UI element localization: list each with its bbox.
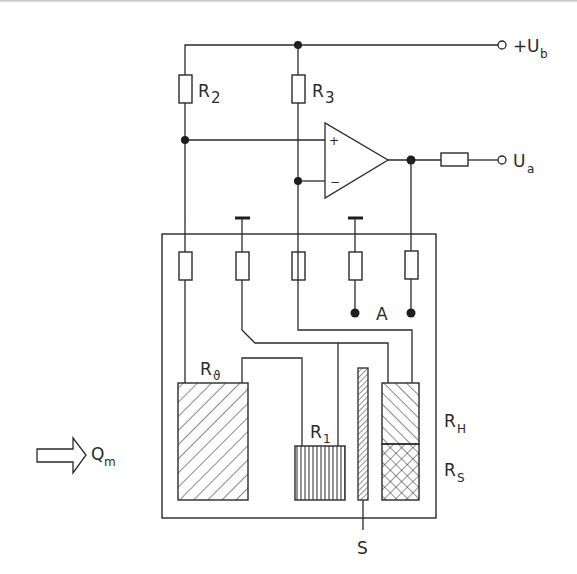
op-amp: + − — [325, 123, 388, 198]
svg-text:b: b — [540, 47, 548, 61]
output-label: U a — [513, 151, 534, 176]
svg-text:U: U — [527, 36, 539, 56]
sensor-strip: S — [357, 368, 368, 558]
sensor-resistor: R S — [382, 444, 465, 500]
junction-dot — [294, 177, 302, 185]
ground-symbol — [348, 218, 363, 234]
supply-rail — [185, 41, 506, 220]
resistor-r3: R 3 — [292, 75, 335, 107]
svg-text:R: R — [310, 422, 322, 442]
circuit-diagram: + U b R 2 R 3 + − U a — [0, 0, 577, 574]
heater-resistor: R H — [382, 383, 466, 444]
svg-text:R: R — [312, 81, 324, 101]
svg-text:ϑ: ϑ — [213, 369, 220, 383]
temperature-resistor: R ϑ — [178, 359, 248, 500]
svg-text:Q: Q — [91, 444, 104, 464]
svg-text:+: + — [513, 36, 527, 56]
svg-text:R: R — [198, 81, 210, 101]
air-flow-arrow-icon — [37, 438, 86, 473]
svg-text:S: S — [457, 471, 465, 485]
svg-text:R: R — [444, 411, 456, 431]
sensor-s-label: S — [357, 538, 368, 558]
terminal-dot — [351, 309, 360, 318]
svg-text:U: U — [513, 151, 525, 171]
svg-text:m: m — [104, 455, 116, 469]
output-terminal[interactable] — [498, 156, 506, 164]
svg-text:2: 2 — [211, 89, 221, 107]
point-a-label: A — [376, 304, 388, 324]
svg-text:−: − — [330, 175, 340, 189]
svg-text:a: a — [527, 162, 534, 176]
svg-text:H: H — [457, 422, 466, 436]
resistor-r2: R 2 — [179, 75, 221, 107]
svg-text:3: 3 — [325, 89, 335, 107]
svg-text:+: + — [329, 134, 339, 148]
supply-label: + U b — [513, 36, 548, 61]
ground-symbol — [235, 218, 250, 234]
svg-text:R: R — [200, 359, 212, 379]
supply-terminal[interactable] — [498, 41, 506, 49]
output-resistor — [441, 153, 468, 166]
svg-text:1: 1 — [323, 432, 331, 446]
junction-dot — [181, 136, 189, 144]
terminal-dot — [407, 309, 416, 318]
flow-label: Q m — [91, 444, 116, 469]
svg-text:R: R — [444, 460, 456, 480]
